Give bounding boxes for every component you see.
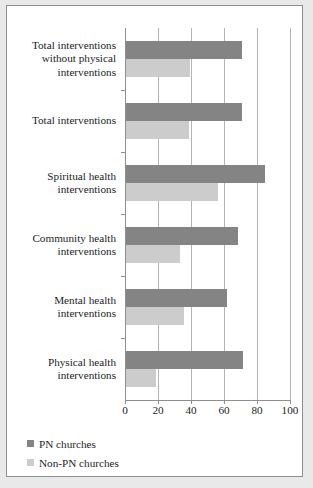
category-label: Physical healthinterventions [15,356,116,383]
category-label: Community healthinterventions [15,232,116,259]
value-tick-label-100: 100 [270,404,310,416]
gridline-80 [257,28,258,400]
category-label: Mental healthinterventions [15,294,116,321]
legend-label: Non-PN churches [39,457,119,469]
category-tick [121,214,125,215]
bar-pn [126,351,243,369]
bar-nonpn [126,121,189,139]
category-tick [121,276,125,277]
figure-background: Physical healthinterventionsMental healt… [0,0,313,488]
bar-pn [126,227,238,245]
legend-item[interactable]: Non-PN churches [27,453,119,472]
category-label: Total interventions [15,114,116,128]
bar-group [126,103,290,139]
bar-pn [126,103,242,121]
category-tick [121,338,125,339]
bar-group [126,289,290,325]
plot-area [119,28,290,400]
bar-nonpn [126,369,156,387]
gridline-60 [224,28,225,400]
bar-nonpn [126,59,190,77]
legend-swatch-nonpn [27,459,34,466]
legend-swatch-pn [27,440,34,447]
category-label: Spiritual healthinterventions [15,170,116,197]
category-tick [121,152,125,153]
legend-item[interactable]: PN churches [27,434,119,453]
gridline-100 [290,28,291,400]
bar-nonpn [126,307,184,325]
category-axis-labels: Physical healthinterventionsMental healt… [15,28,116,400]
chart-legend: PN churchesNon-PN churches [27,434,119,472]
gridline-20 [158,28,159,400]
category-axis-line [125,400,290,401]
legend-label: PN churches [39,438,96,450]
category-label: Total interventionswithout physicalinter… [15,39,116,80]
gridline-40 [191,28,192,400]
bar-pn [126,289,227,307]
bar-pn [126,41,242,59]
bar-pn [126,165,265,183]
value-axis-tick-labels: 020406080100 [119,404,299,422]
bar-group [126,41,290,77]
bar-group [126,351,290,387]
category-tick [121,90,125,91]
bar-nonpn [126,183,218,201]
bar-group [126,227,290,263]
value-axis-baseline [125,28,126,400]
chart-figure-frame: Physical healthinterventionsMental healt… [6,5,303,477]
bar-group [126,165,290,201]
bar-nonpn [126,245,180,263]
